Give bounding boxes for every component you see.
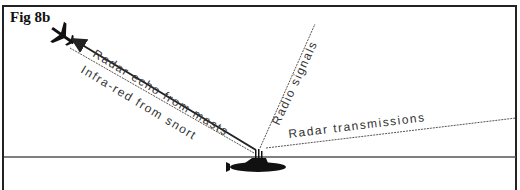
radio-signals-label: Radio signals	[269, 38, 320, 127]
radar-transmissions-label: Radar transmissions	[288, 110, 427, 141]
diagram: Fig 8b Radar echo from masts Infra-red f…	[0, 0, 520, 190]
figure-label: Fig 8b	[10, 9, 50, 25]
submarine-icon	[226, 149, 286, 172]
aircraft-icon	[45, 18, 80, 53]
